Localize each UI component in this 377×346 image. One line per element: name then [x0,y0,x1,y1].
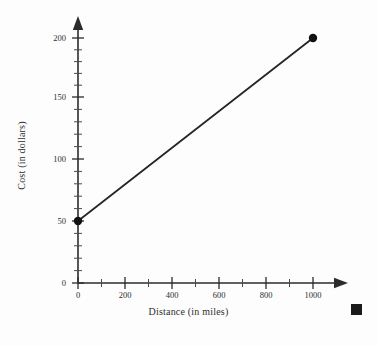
data-point-marker [74,217,82,225]
y-tick-label-200: 200 [26,33,66,43]
y-tick-label-0: 0 [26,278,66,288]
x-tick-label-1000: 1000 [293,290,333,300]
y-axis-arrowhead [73,16,83,30]
data-line-series-0 [78,38,313,221]
y-tick-label-100: 100 [26,154,66,164]
x-axis-title: Distance (in miles) [0,306,377,317]
line-chart-figure: 0 50 100 150 200 0 200 400 600 800 1000 … [0,0,377,346]
x-tick-label-0: 0 [58,290,98,300]
corner-square-mark [351,304,362,315]
y-tick-label-150: 150 [26,92,66,102]
x-tick-label-400: 400 [152,290,192,300]
x-tick-label-600: 600 [199,290,239,300]
y-tick-label-50: 50 [26,216,66,226]
x-tick-label-200: 200 [105,290,145,300]
x-tick-label-800: 800 [246,290,286,300]
data-point-marker [309,34,317,42]
x-axis-arrowhead [334,278,348,288]
y-axis-title: Cost (in dollars) [16,91,27,221]
